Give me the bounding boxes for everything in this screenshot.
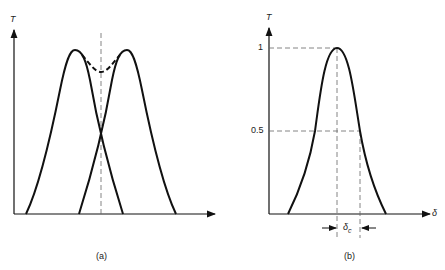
panel-b-x-label: δ (432, 209, 437, 218)
panel-b-tick-1: 1 (258, 43, 263, 52)
panel-b-tick-half: 0.5 (251, 126, 264, 135)
figure-canvas (0, 0, 445, 270)
panel-a-caption: (a) (96, 252, 107, 261)
panel-a-left-curve (26, 50, 123, 214)
panel-b (269, 28, 430, 238)
panel-a-right-curve (79, 50, 176, 214)
panel-a-y-label: T (10, 15, 16, 24)
panel-b-caption: (b) (344, 252, 355, 261)
panel-a (14, 30, 215, 214)
panel-b-width-label: δc (343, 223, 352, 234)
panel-b-y-label: T (266, 13, 272, 22)
